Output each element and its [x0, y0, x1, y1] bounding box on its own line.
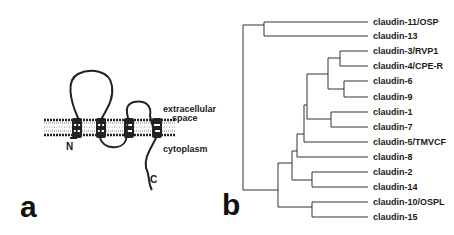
panel-letter-b: b — [222, 190, 240, 220]
leaf-label: claudin-7 — [373, 122, 413, 132]
leaf-label: claudin-1 — [373, 107, 413, 117]
leaf-label: claudin-4/CPE-R — [373, 61, 443, 71]
leaf-label: claudin-6 — [373, 76, 413, 86]
leaf-label: claudin-13 — [373, 31, 418, 41]
leaf-label: claudin-10/OSPL — [373, 197, 445, 207]
panel-b-phylogenetic-tree: claudin-11/OSP claudin-13 claudin-3/RVP1… — [0, 0, 454, 235]
leaf-label: claudin-5/TMVCF — [373, 137, 446, 147]
leaf-label: claudin-8 — [373, 152, 413, 162]
leaf-label: claudin-3/RVP1 — [373, 46, 438, 56]
tree-branches — [243, 22, 368, 217]
leaf-label: claudin-9 — [373, 92, 413, 102]
leaf-label: claudin-15 — [373, 212, 418, 222]
leaf-label: claudin-14 — [373, 182, 418, 192]
leaf-label: claudin-11/OSP — [373, 17, 439, 27]
leaf-label: claudin-2 — [373, 167, 413, 177]
